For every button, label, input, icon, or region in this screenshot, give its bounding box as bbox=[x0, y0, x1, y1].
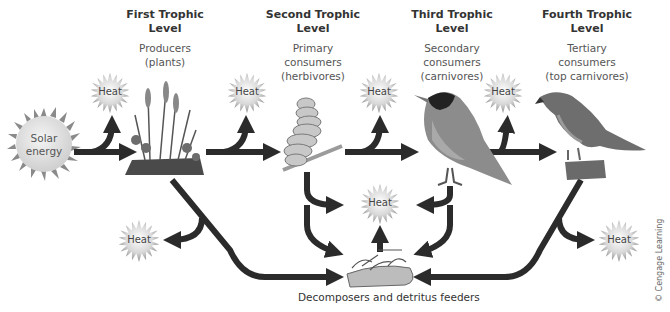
level-title: Third TrophicLevel bbox=[392, 8, 512, 36]
plants-illustration bbox=[125, 81, 204, 175]
heat-label-2: Heat bbox=[227, 86, 267, 97]
level-description: Tertiaryconsumers(top carnivores) bbox=[527, 41, 647, 83]
heat-label-3: Heat bbox=[359, 86, 399, 97]
copyright-credit: © Cengage Learning bbox=[655, 219, 664, 302]
decomposers-illustration bbox=[347, 250, 413, 287]
level-description: Primaryconsumers(herbivores) bbox=[253, 41, 373, 83]
trophic-level-4: Fourth TrophicLevel Tertiaryconsumers(to… bbox=[527, 8, 647, 83]
trophic-level-1: First TrophicLevel Producers(plants) bbox=[105, 8, 225, 69]
heat-label-5: Heat bbox=[360, 197, 400, 208]
level-title: First TrophicLevel bbox=[105, 8, 225, 36]
level-description: Secondaryconsumers(carnivores) bbox=[392, 41, 512, 83]
hawk-illustration bbox=[535, 92, 646, 180]
heat-label-1: Heat bbox=[90, 86, 130, 97]
level-description: Producers(plants) bbox=[105, 41, 225, 69]
heat-label-6: Heat bbox=[119, 234, 159, 245]
caterpillar-illustration bbox=[283, 98, 342, 170]
heat-label-4: Heat bbox=[483, 86, 523, 97]
level-title: Fourth TrophicLevel bbox=[527, 8, 647, 36]
decomposers-label: Decomposers and detritus feeders bbox=[298, 291, 480, 303]
trophic-level-2: Second TrophicLevel Primaryconsumers(her… bbox=[253, 8, 373, 83]
heat-label-7: Heat bbox=[599, 234, 639, 245]
solar-energy-label: Solarenergy bbox=[16, 132, 72, 158]
trophic-level-3: Third TrophicLevel Secondaryconsumers(ca… bbox=[392, 8, 512, 83]
level-title: Second TrophicLevel bbox=[253, 8, 373, 36]
